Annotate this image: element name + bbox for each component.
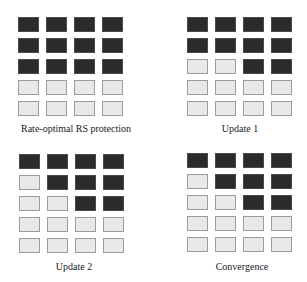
unprotected-block bbox=[187, 216, 208, 231]
protected-block bbox=[103, 196, 124, 211]
unprotected-block bbox=[46, 101, 67, 116]
protected-block bbox=[243, 17, 264, 32]
unprotected-block bbox=[187, 59, 208, 74]
unprotected-block bbox=[46, 80, 67, 95]
unprotected-block bbox=[74, 80, 95, 95]
unprotected-block bbox=[19, 217, 40, 232]
protected-block bbox=[271, 153, 292, 168]
protected-block bbox=[102, 59, 123, 74]
unprotected-block bbox=[215, 237, 236, 252]
unprotected-block bbox=[19, 238, 40, 253]
protected-block bbox=[75, 154, 96, 169]
protected-block bbox=[75, 175, 96, 190]
unprotected-block bbox=[187, 195, 208, 210]
protected-block bbox=[243, 59, 264, 74]
protected-block bbox=[187, 38, 208, 53]
protected-block bbox=[18, 38, 39, 53]
protected-block bbox=[46, 17, 67, 32]
unprotected-block bbox=[215, 195, 236, 210]
unprotected-block bbox=[19, 175, 40, 190]
unprotected-block bbox=[74, 101, 95, 116]
protected-block bbox=[47, 175, 68, 190]
protected-block bbox=[215, 38, 236, 53]
protected-block bbox=[215, 174, 236, 189]
protected-block bbox=[102, 38, 123, 53]
unprotected-block bbox=[103, 217, 124, 232]
unprotected-block bbox=[215, 59, 236, 74]
panel-caption: Update 2 bbox=[14, 261, 134, 272]
panel-update-2: Update 2 bbox=[19, 154, 159, 282]
protected-block bbox=[75, 196, 96, 211]
protected-block bbox=[46, 59, 67, 74]
protected-block bbox=[74, 17, 95, 32]
protected-block bbox=[271, 17, 292, 32]
unprotected-block bbox=[47, 238, 68, 253]
panel-convergence: Convergence bbox=[187, 153, 307, 282]
unprotected-block bbox=[47, 217, 68, 232]
unprotected-block bbox=[103, 238, 124, 253]
unprotected-block bbox=[47, 196, 68, 211]
protected-block bbox=[102, 17, 123, 32]
protected-block bbox=[103, 154, 124, 169]
protected-block bbox=[187, 153, 208, 168]
unprotected-block bbox=[75, 238, 96, 253]
unprotected-block bbox=[243, 80, 264, 95]
unprotected-block bbox=[19, 196, 40, 211]
unprotected-block bbox=[215, 216, 236, 231]
unprotected-block bbox=[187, 174, 208, 189]
unprotected-block bbox=[271, 80, 292, 95]
unprotected-block bbox=[243, 101, 264, 116]
unprotected-block bbox=[187, 101, 208, 116]
protected-block bbox=[271, 174, 292, 189]
protected-block bbox=[187, 17, 208, 32]
protected-block bbox=[243, 38, 264, 53]
protected-block bbox=[46, 38, 67, 53]
unprotected-block bbox=[243, 216, 264, 231]
protected-block bbox=[215, 17, 236, 32]
unprotected-block bbox=[18, 80, 39, 95]
panel-update-1: Update 1 bbox=[187, 17, 307, 147]
unprotected-block bbox=[75, 217, 96, 232]
protected-block bbox=[19, 154, 40, 169]
panel-caption: Convergence bbox=[182, 261, 302, 272]
panel-rate-optimal-rs-protection: Rate-optimal RS protection bbox=[18, 17, 158, 147]
unprotected-block bbox=[18, 101, 39, 116]
protected-block bbox=[243, 195, 264, 210]
protected-block bbox=[74, 59, 95, 74]
protected-block bbox=[74, 38, 95, 53]
unprotected-block bbox=[271, 216, 292, 231]
protected-block bbox=[215, 153, 236, 168]
protected-block bbox=[271, 59, 292, 74]
panel-caption: Update 1 bbox=[180, 123, 300, 134]
protected-block bbox=[103, 175, 124, 190]
unprotected-block bbox=[271, 237, 292, 252]
unprotected-block bbox=[215, 80, 236, 95]
panel-caption: Rate-optimal RS protection bbox=[16, 123, 136, 134]
protected-block bbox=[243, 153, 264, 168]
unprotected-block bbox=[187, 237, 208, 252]
protected-block bbox=[271, 195, 292, 210]
protected-block bbox=[18, 17, 39, 32]
unprotected-block bbox=[102, 80, 123, 95]
unprotected-block bbox=[215, 101, 236, 116]
unprotected-block bbox=[102, 101, 123, 116]
unprotected-block bbox=[187, 80, 208, 95]
unprotected-block bbox=[243, 237, 264, 252]
protected-block bbox=[18, 59, 39, 74]
protected-block bbox=[47, 154, 68, 169]
unprotected-block bbox=[271, 101, 292, 116]
protected-block bbox=[243, 174, 264, 189]
protected-block bbox=[271, 38, 292, 53]
